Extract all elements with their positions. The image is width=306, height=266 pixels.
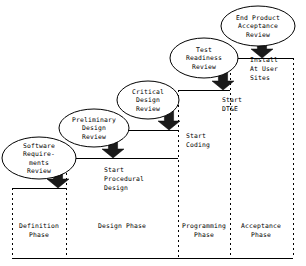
critical-design-review-label-line-1: Design	[136, 96, 160, 104]
test-readiness-review-label-line-2: Review	[192, 63, 216, 71]
software-requirements-review-label-line-1: Require-	[23, 150, 55, 158]
definition-phase-label: DefinitionPhase	[19, 222, 59, 239]
milestone-group: SoftwareRequire-mentsReviewPreliminaryDe…	[2, 6, 295, 179]
design-phase-label: Design Phase	[98, 222, 146, 230]
install-at-user-sites-label: InstallAt UserSites	[250, 56, 278, 82]
preliminary-design-review-label-line-2: Review	[82, 133, 106, 141]
test-readiness-review-label-line-0: Test	[196, 46, 212, 54]
start-dt-and-e-label-line-0: Start	[222, 96, 242, 104]
diagram-canvas: SoftwareRequire-mentsReviewPreliminaryDe…	[0, 0, 306, 266]
end-product-acceptance-review-label-line-1: Acceptance	[238, 22, 278, 30]
start-coding-label-line-0: Start	[186, 132, 206, 140]
acceptance-phase-label: AcceptancePhase	[241, 222, 281, 239]
software-requirements-review-label-line-2: ments	[29, 159, 49, 167]
start-procedural-design-label-line-2: Design	[104, 184, 128, 192]
critical-design-review-label: CriticalDesignReview	[132, 88, 164, 113]
start-dt-and-e-label: StartDT&E	[222, 96, 242, 113]
critical-design-review-label-line-0: Critical	[132, 88, 164, 96]
critical-design-review-label-line-2: Review	[136, 105, 160, 113]
start-coding-label: StartCoding	[186, 132, 210, 149]
design-phase-label-line-0: Design Phase	[98, 222, 146, 230]
definition-phase-label-line-0: Definition	[19, 222, 59, 230]
test-readiness-review-label-line-1: Readiness	[186, 54, 222, 62]
phase-label-group: DefinitionPhaseDesign PhaseProgrammingPh…	[19, 222, 281, 239]
start-dt-and-e-label-line-1: DT&E	[222, 105, 238, 113]
preliminary-design-review-label-line-0: Preliminary	[72, 116, 116, 124]
definition-phase-label-line-1: Phase	[29, 231, 49, 239]
start-coding-label-line-1: Coding	[186, 141, 210, 149]
software-requirements-review-label-line-3: Review	[27, 167, 51, 175]
programming-phase-label-line-1: Phase	[194, 231, 214, 239]
preliminary-design-review-label-line-1: Design	[82, 124, 106, 132]
install-at-user-sites-label-line-2: Sites	[250, 74, 270, 82]
lifecycle-staircase-diagram: SoftwareRequire-mentsReviewPreliminaryDe…	[0, 0, 306, 266]
acceptance-phase-label-line-0: Acceptance	[241, 222, 281, 230]
install-at-user-sites-label-line-1: At User	[250, 65, 278, 73]
end-product-acceptance-review-label-line-2: Review	[246, 31, 270, 39]
install-at-user-sites-label-line-0: Install	[250, 56, 278, 64]
programming-phase-label: ProgrammingPhase	[182, 222, 226, 239]
acceptance-phase-label-line-1: Phase	[251, 231, 271, 239]
start-procedural-design-label: StartProceduralDesign	[104, 166, 144, 192]
start-procedural-design-label-line-0: Start	[104, 166, 124, 174]
start-procedural-design-label-line-1: Procedural	[104, 175, 144, 183]
programming-phase-label-line-0: Programming	[182, 222, 226, 230]
software-requirements-review-label-line-0: Software	[23, 142, 55, 150]
end-product-acceptance-review-label-line-0: End Product	[236, 14, 280, 22]
